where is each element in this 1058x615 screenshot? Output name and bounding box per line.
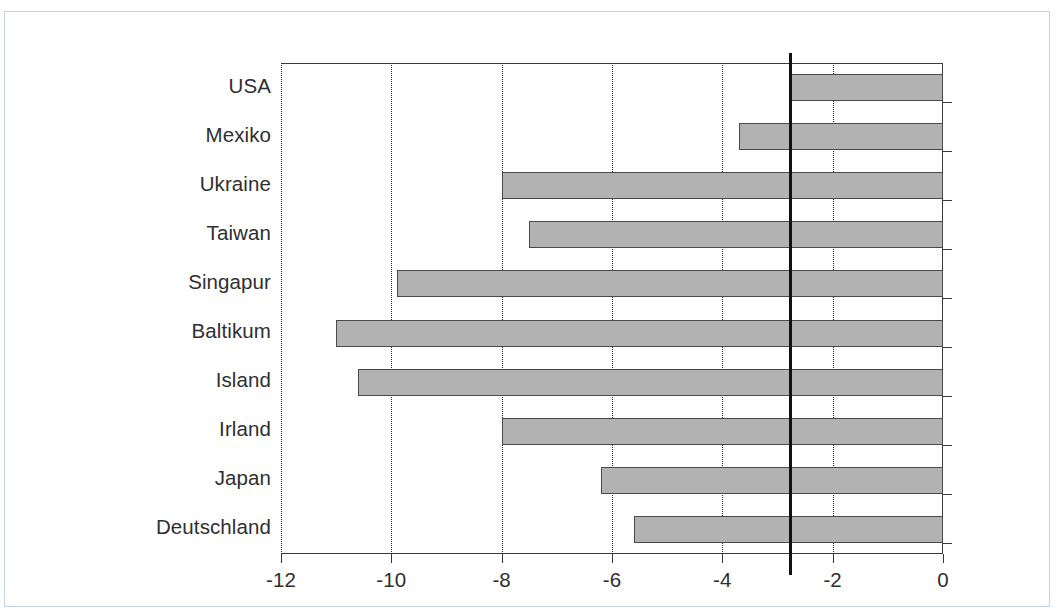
bar (397, 270, 943, 297)
y-tick-mark (943, 494, 952, 495)
bar (336, 320, 943, 347)
y-tick-mark (943, 396, 952, 397)
y-axis-label: Singapur (21, 270, 271, 294)
y-axis-label: Deutschland (21, 515, 271, 539)
y-axis-label: Mexiko (21, 123, 271, 147)
x-tick-label: -10 (361, 568, 421, 592)
bar (358, 369, 943, 396)
x-tick-label: -2 (803, 568, 863, 592)
gridline--10 (391, 63, 392, 554)
y-axis-labels: USAMexikoUkraineTaiwanSingapurBaltikumIs… (13, 63, 271, 554)
y-tick-mark (943, 200, 952, 201)
y-tick-mark (943, 151, 952, 152)
y-axis-label: Baltikum (21, 319, 271, 343)
bar (529, 221, 943, 248)
y-axis-label: Taiwan (21, 221, 271, 245)
x-tick-mark (943, 554, 944, 563)
bar (601, 467, 943, 494)
y-axis-label: Irland (21, 417, 271, 441)
y-axis-label: Japan (21, 466, 271, 490)
y-tick-mark (943, 543, 952, 544)
y-axis-line (281, 63, 282, 554)
x-tick-label: -8 (472, 568, 532, 592)
x-tick-label: 0 (913, 568, 973, 592)
y-tick-mark (943, 249, 952, 250)
x-tick-label: -4 (692, 568, 752, 592)
y-axis-label: USA (21, 74, 271, 98)
x-tick-mark (391, 554, 392, 563)
x-tick-mark (722, 554, 723, 563)
x-tick-mark (612, 554, 613, 563)
y-tick-mark (943, 102, 952, 103)
y-tick-mark (943, 445, 952, 446)
y-axis-label: Island (21, 368, 271, 392)
x-tick-label: -12 (251, 568, 311, 592)
reference-line (789, 53, 792, 575)
figure-frame: USAMexikoUkraineTaiwanSingapurBaltikumIs… (4, 11, 1050, 607)
y-tick-mark (943, 298, 952, 299)
figure-caption-cutoff (0, 0, 1058, 7)
x-tick-mark (502, 554, 503, 563)
gridline--8 (502, 63, 503, 554)
x-tick-mark (281, 554, 282, 563)
bar (502, 418, 943, 445)
bar (789, 74, 943, 101)
bar (739, 123, 943, 150)
x-tick-mark (833, 554, 834, 563)
bar-chart: USAMexikoUkraineTaiwanSingapurBaltikumIs… (5, 12, 1051, 608)
y-tick-mark (943, 347, 952, 348)
y-axis-label: Ukraine (21, 172, 271, 196)
x-tick-label: -6 (582, 568, 642, 592)
bar (502, 172, 943, 199)
